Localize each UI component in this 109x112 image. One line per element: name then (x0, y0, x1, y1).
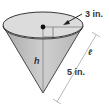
slant-tick-top (92, 32, 100, 37)
height-label: h (34, 56, 40, 66)
slant-tick-bottom (53, 99, 61, 104)
radius-label: 3 in. (85, 9, 103, 19)
cone-diagram: 3 in. 5 in. h ℓ (0, 0, 109, 112)
center-point (41, 25, 46, 30)
slant-symbol-label: ℓ (88, 48, 93, 57)
slant-height-label: 5 in. (67, 67, 85, 77)
